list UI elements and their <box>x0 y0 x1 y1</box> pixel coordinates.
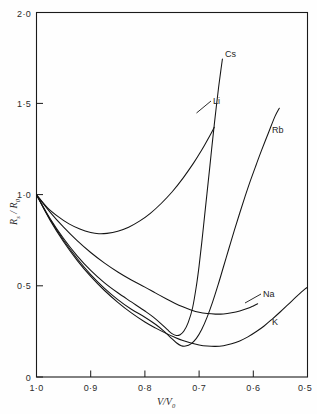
curve-k <box>37 195 308 347</box>
curve-label-rb: Rb <box>272 125 284 135</box>
curve-label-k: K <box>272 317 278 327</box>
x-tick-label-3: 0·7 <box>192 383 206 393</box>
x-axis-tick-labels: 1·0 0·9 0·8 0·7 0·6 0·5 <box>30 383 312 393</box>
leader-na <box>245 294 261 303</box>
y-tick-label-4: 2·0 <box>17 9 31 19</box>
y-axis-title-main: R <box>8 219 19 226</box>
x-tick-label-1: 0·9 <box>84 383 98 393</box>
y-tick-label-0: 0 <box>26 373 31 383</box>
y-axis-tick-labels: 0 0·5 1·0 1·5 2·0 <box>17 9 31 383</box>
y-tick-label-3: 1·5 <box>17 99 31 109</box>
y-tick-label-1: 0·5 <box>17 281 31 291</box>
chart-svg: 0 0·5 1·0 1·5 2·0 1·0 0·9 0·8 0·7 0·6 0·… <box>0 0 317 414</box>
y-axis-title-mid: / R <box>8 202 19 216</box>
x-axis-title: V/V0 <box>157 396 176 409</box>
x-tick-label-4: 0·6 <box>246 383 260 393</box>
curve-label-na: Na <box>263 289 275 299</box>
x-tick-label-5: 0·5 <box>298 383 312 393</box>
y-axis-ticks <box>37 13 44 378</box>
figure-container: 0 0·5 1·0 1·5 2·0 1·0 0·9 0·8 0·7 0·6 0·… <box>0 0 317 414</box>
y-tick-label-2: 1·0 <box>17 190 31 200</box>
curve-label-li: Li <box>213 96 220 106</box>
y-axis-title: Rs / R0 <box>8 198 21 226</box>
curve-li <box>37 127 215 233</box>
x-axis-ticks <box>37 371 308 378</box>
curve-label-cs: Cs <box>225 49 236 59</box>
curve-na <box>37 195 258 314</box>
leader-li <box>197 101 212 113</box>
svg-text:Rs / R0: Rs / R0 <box>8 198 21 226</box>
x-tick-label-2: 0·8 <box>138 383 152 393</box>
curve-cs <box>37 59 223 336</box>
plot-frame <box>37 13 308 378</box>
x-axis-title-sub: 0 <box>172 402 176 409</box>
x-tick-label-0: 1·0 <box>30 383 44 393</box>
curves-group <box>37 59 308 346</box>
